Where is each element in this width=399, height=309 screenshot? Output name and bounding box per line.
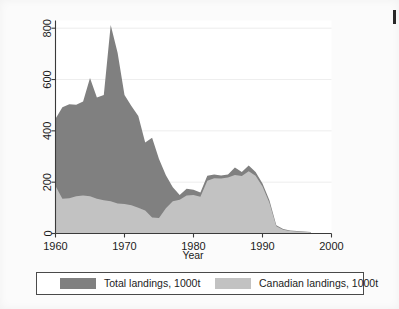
legend-swatch-canadian-landings [215,278,251,289]
y-tick-label-200: 200 [42,173,54,191]
figure-page: 0200400600800 19601970198019902000 Year … [0,0,399,309]
y-tick-label-600: 600 [42,70,54,88]
x-tick-label-1990: 1990 [250,240,274,252]
legend-label-total-landings: Total landings, 1000t [104,277,200,289]
x-tick-label-1960: 1960 [43,240,67,252]
legend: Total landings, 1000t Canadian landings,… [37,273,379,295]
legend-swatch-total-landings [60,278,96,289]
y-tick-label-400: 400 [42,122,54,140]
chart-area: 0200400600800 19601970198019902000 Year … [0,0,399,309]
y-tick-label-0: 0 [42,230,54,236]
x-axis-title: Year [182,249,204,261]
x-tick-label-1970: 1970 [112,240,136,252]
legend-label-canadian-landings: Canadian landings, 1000t [259,277,378,289]
page-corner-mark [393,10,396,24]
y-tick-label-800: 800 [42,19,54,37]
y-axis-ticks: 0200400600800 [42,19,56,237]
landings-area-chart: 0200400600800 19601970198019902000 Year … [0,0,399,309]
x-tick-label-2000: 2000 [319,240,343,252]
